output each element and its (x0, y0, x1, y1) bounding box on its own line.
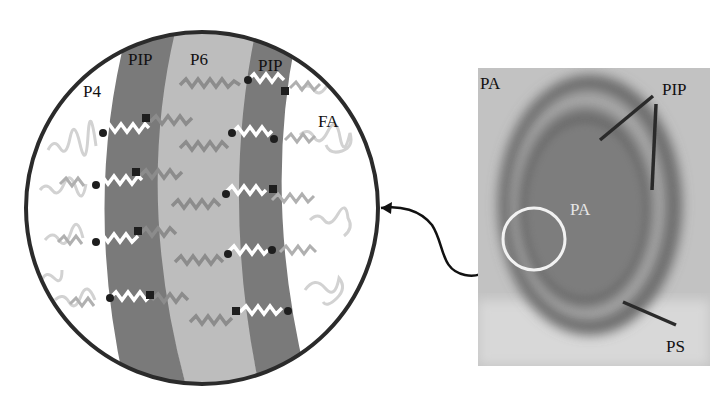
label-pip-right: PIP (258, 56, 283, 75)
label-pip-left: PIP (128, 50, 153, 69)
label-fa: FA (318, 112, 339, 131)
label-p6: P6 (190, 50, 208, 69)
arrowhead-icon (381, 202, 392, 214)
label-pip-photo: PIP (662, 80, 687, 99)
magnified-schematic: P4 PIP P6 PIP FA (26, 20, 378, 400)
label-ps: PS (666, 337, 685, 356)
micrograph-photo: PA PA PIP PS (478, 68, 710, 366)
figure-canvas: P4 PIP P6 PIP FA PA PA PIP PS (0, 0, 725, 413)
label-p4: P4 (83, 82, 101, 101)
label-pa-corner: PA (480, 74, 501, 93)
label-pa-center: PA (570, 200, 591, 219)
